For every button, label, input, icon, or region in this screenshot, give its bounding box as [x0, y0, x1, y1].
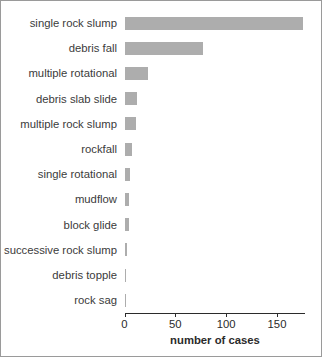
category-label: block glide — [1, 214, 117, 236]
category-label: single rotational — [1, 163, 117, 185]
bar — [125, 17, 304, 30]
bar — [125, 294, 126, 307]
x-axis-tick-label: 0 — [105, 318, 145, 330]
category-label: mudflow — [1, 188, 117, 210]
x-axis-tick-label: 150 — [257, 318, 297, 330]
category-label: debris topple — [1, 264, 117, 286]
bar — [125, 269, 126, 282]
category-label: rockfall — [1, 138, 117, 160]
category-label: multiple rock slump — [1, 113, 117, 135]
category-label: rock sag — [1, 289, 117, 311]
category-label: multiple rotational — [1, 62, 117, 84]
x-axis-tick-label: 100 — [206, 318, 246, 330]
bar-row: debris slab slide — [1, 88, 322, 110]
x-axis-tick — [226, 313, 227, 317]
x-axis-tick — [125, 313, 126, 317]
bar — [125, 67, 148, 80]
bar-row: single rock slump — [1, 12, 322, 34]
category-label: debris slab slide — [1, 88, 117, 110]
bar-row: debris topple — [1, 264, 322, 286]
x-axis-tick — [277, 313, 278, 317]
bar — [125, 117, 136, 130]
bar-row: block glide — [1, 214, 322, 236]
bar — [125, 42, 203, 55]
category-label: debris fall — [1, 37, 117, 59]
bar-row: rock sag — [1, 289, 322, 311]
plot-area: single rock slumpdebris fallmultiple rot… — [1, 1, 322, 357]
bar-row: rockfall — [1, 138, 322, 160]
bar — [125, 143, 132, 156]
x-axis-line — [125, 313, 306, 314]
bar — [125, 168, 130, 181]
x-axis-tick-label: 50 — [155, 318, 195, 330]
bar-row: successive rock slump — [1, 239, 322, 261]
category-label: successive rock slump — [1, 239, 117, 261]
bar-row: debris fall — [1, 37, 322, 59]
bar-row: mudflow — [1, 188, 322, 210]
bar-row: single rotational — [1, 163, 322, 185]
bar — [125, 243, 127, 256]
bar-row: multiple rock slump — [1, 113, 322, 135]
category-label: single rock slump — [1, 12, 117, 34]
x-axis-title: number of cases — [125, 334, 306, 346]
bar — [125, 92, 137, 105]
bar-chart-figure: single rock slumpdebris fallmultiple rot… — [0, 0, 322, 357]
bar-row: multiple rotational — [1, 62, 322, 84]
bar — [125, 193, 129, 206]
x-axis-tick — [175, 313, 176, 317]
bar — [125, 218, 129, 231]
